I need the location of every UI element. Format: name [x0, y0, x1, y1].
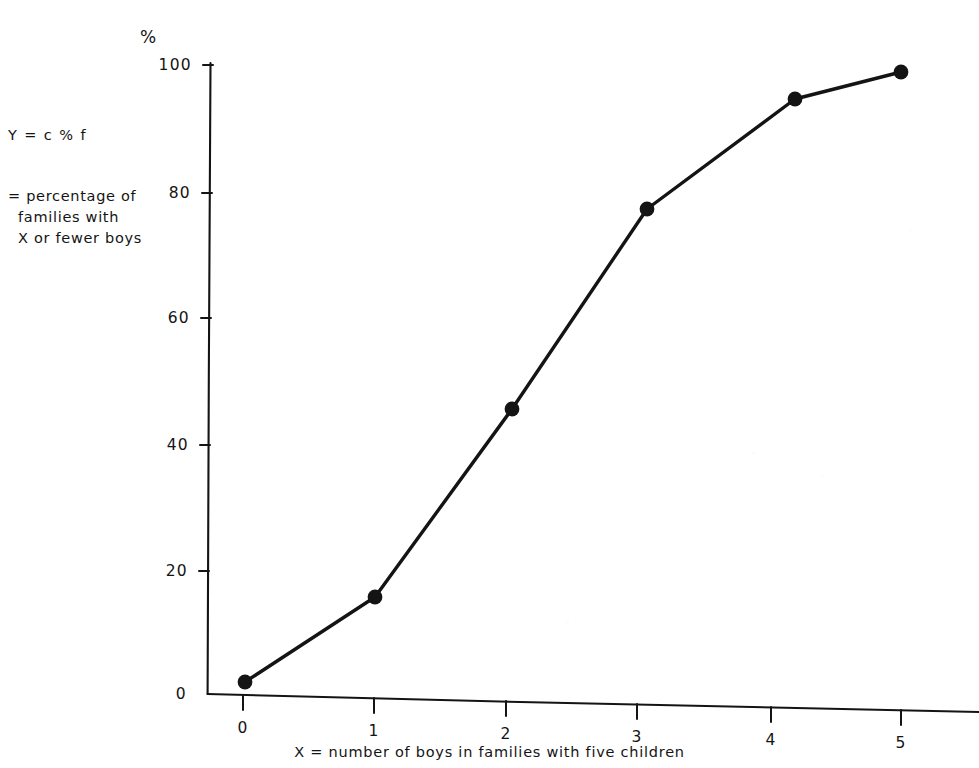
- data-point-5: [894, 65, 909, 80]
- y-axis-unit-label: %: [140, 27, 157, 47]
- annotation-line-3: X or fewer boys: [18, 228, 142, 249]
- data-point-2: [505, 402, 520, 417]
- y-tick-label-100: 100: [120, 56, 192, 74]
- x-tick-label-0: 0: [237, 719, 248, 737]
- data-point-3: [640, 202, 655, 217]
- y-tick-label-0: 0: [120, 685, 187, 703]
- x-tick-label-2: 2: [500, 725, 511, 743]
- chart-figure: % 100 80 60 40 20 0 0 1 2 3 4 5 Y = c % …: [0, 0, 979, 768]
- annotation-definition-body: = percentage of families with X or fewer…: [18, 186, 142, 249]
- x-axis-line: [208, 694, 979, 712]
- y-axis-line: [208, 63, 211, 694]
- data-point-0: [238, 675, 253, 690]
- data-point-1: [368, 590, 383, 605]
- data-point-markers: [238, 65, 909, 690]
- x-tick-label-1: 1: [368, 722, 379, 740]
- y-tick-label-20: 20: [120, 562, 188, 580]
- x-axis-caption: X = number of boys in families with five…: [0, 744, 979, 760]
- data-point-4: [788, 92, 803, 107]
- y-tick-label-40: 40: [120, 436, 189, 454]
- y-tick-label-60: 60: [120, 309, 190, 327]
- x-axis-ticks: [243, 695, 901, 725]
- annotation-line-1: = percentage of: [8, 186, 142, 207]
- annotation-definition-title: Y = c % f: [8, 128, 87, 143]
- annotation-line-2: families with: [18, 207, 142, 228]
- data-line-cumulative-percentage: [245, 72, 901, 682]
- chart-plot-area: [0, 0, 979, 768]
